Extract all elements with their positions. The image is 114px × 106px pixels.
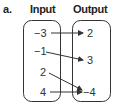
mapping-diagram: −3 −1 2 4 2 3 −4 (0, 0, 114, 106)
output-value: 2 (87, 27, 93, 39)
mapping-arrow (49, 73, 82, 90)
input-value: −1 (34, 45, 47, 57)
input-value: 2 (40, 66, 46, 78)
input-value: 4 (40, 86, 46, 98)
output-value: −4 (83, 86, 96, 98)
input-value: −3 (34, 27, 47, 39)
mapping-arrow (46, 52, 83, 60)
output-value: 3 (87, 54, 93, 66)
